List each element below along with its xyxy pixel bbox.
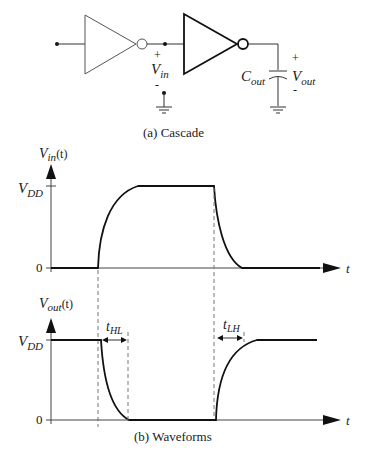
tlh-dimension-arrow	[217, 335, 243, 341]
vout-vdd-label: VDD	[18, 333, 43, 352]
vin-curve	[51, 186, 320, 268]
vout-waveform-plot: Vout(t) VDD 0 t tHL tLH	[18, 296, 350, 428]
vin-x-axis-arrow-icon	[323, 263, 341, 273]
inverter-2-bubble-icon	[238, 39, 248, 49]
vout-zero-label: 0	[36, 412, 43, 427]
inverter-1-bubble-icon	[137, 39, 147, 49]
thl-label: tHL	[106, 319, 123, 336]
caption-waveforms: (b) Waveforms	[134, 429, 212, 444]
ground-icon	[270, 107, 286, 113]
vin-plus-sign: +	[154, 48, 161, 62]
vin-vdd-label: VDD	[18, 180, 43, 199]
cascade-circuit: + Vin - Cout + Vout -	[55, 14, 316, 140]
cout-label: Cout	[241, 68, 266, 87]
inverter-1-icon	[85, 15, 136, 74]
vout-x-axis-arrow-icon	[323, 415, 341, 425]
vin-t-label: t	[346, 261, 350, 276]
vout-plus-sign: +	[292, 51, 299, 65]
figure-canvas: + Vin - Cout + Vout -	[0, 0, 369, 467]
vout-minus-sign: -	[293, 83, 297, 97]
vin-waveform-plot: Vin(t) VDD 0 t	[18, 146, 350, 276]
tlh-label: tLH	[223, 317, 240, 334]
vout-t-label: t	[346, 413, 350, 428]
vin-y-axis-arrow-icon	[46, 164, 56, 179]
vin-zero-label: 0	[36, 260, 43, 275]
thl-dimension-arrow	[102, 337, 127, 343]
ground-icon	[156, 107, 172, 113]
vin-minus-sign: -	[155, 78, 159, 92]
output-wire	[248, 44, 278, 70]
caption-cascade: (a) Cascade	[143, 125, 204, 140]
vin-node-dot	[163, 42, 167, 46]
vin-label: Vin	[151, 61, 169, 80]
vout-y-label: Vout(t)	[39, 296, 73, 313]
vout-y-axis-arrow-icon	[46, 318, 56, 333]
inverter-2-icon	[184, 14, 237, 74]
vin-y-label: Vin(t)	[39, 146, 67, 163]
vout-curve	[51, 340, 317, 420]
